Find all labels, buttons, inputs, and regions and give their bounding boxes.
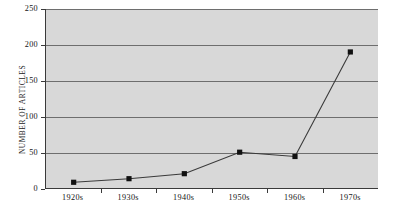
x-tick-mark — [212, 189, 213, 193]
data-point-marker — [292, 154, 297, 159]
y-axis-ticks: 050100150200250 — [0, 0, 45, 214]
series-path — [74, 52, 351, 182]
data-point-marker — [126, 176, 131, 181]
y-tick-label: 200 — [25, 41, 38, 49]
data-point-marker — [237, 150, 242, 155]
y-tick-label: 0 — [34, 185, 38, 193]
x-tick-label: 1950s — [229, 194, 250, 202]
data-point-marker — [348, 49, 353, 54]
data-point-marker — [71, 180, 76, 185]
series-line — [46, 9, 378, 188]
plot-area — [45, 9, 378, 189]
y-tick-label: 50 — [29, 149, 38, 157]
line-chart: NUMBER OF ARTICLES 050100150200250 1920s… — [0, 0, 393, 214]
x-tick-label: 1920s — [62, 194, 83, 202]
x-tick-label: 1970s — [340, 194, 361, 202]
x-tick-mark — [156, 189, 157, 193]
x-axis-ticks: 1920s1930s1940s1950s1960s1970s — [45, 189, 378, 214]
data-point-marker — [182, 171, 187, 176]
x-tick-mark — [267, 189, 268, 193]
x-tick-mark — [101, 189, 102, 193]
y-tick-label: 150 — [25, 77, 38, 85]
x-tick-label: 1960s — [284, 194, 305, 202]
y-tick-label: 100 — [25, 113, 38, 121]
x-tick-label: 1940s — [173, 194, 194, 202]
y-tick-label: 250 — [25, 5, 38, 13]
x-tick-mark — [323, 189, 324, 193]
x-tick-label: 1930s — [118, 194, 139, 202]
